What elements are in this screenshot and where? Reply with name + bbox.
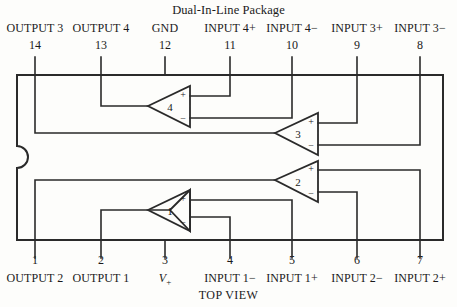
net-output1 <box>101 210 170 240</box>
net-input2-minus <box>318 192 357 240</box>
opamp-3-plus-sign: + <box>308 116 314 127</box>
opamp-1-number: 1 <box>167 205 173 217</box>
opamp-3-minus-sign: − <box>308 140 314 151</box>
net-input2-plus <box>318 170 420 240</box>
schematic-drawing: 4 + − 3 + − 1 + − 2 + − <box>0 0 457 307</box>
dip-pinout-figure: Dual-In-Line Package OUTPUT 3 OUTPUT 4 G… <box>0 0 457 307</box>
net-input4-plus <box>190 75 230 96</box>
opamp-2-minus-sign: − <box>308 188 314 199</box>
package-body-outline <box>17 75 443 240</box>
net-output4 <box>101 75 148 106</box>
opamp-3-number: 3 <box>295 128 301 140</box>
net-output3 <box>35 75 275 133</box>
net-input3-minus <box>318 75 420 145</box>
opamp-1-minus-sign: − <box>180 217 186 228</box>
opamp-2-plus-sign: + <box>308 163 314 174</box>
net-input1-minus <box>190 217 230 240</box>
opamp-4-minus-sign: − <box>180 113 186 124</box>
opamp-1-plus-sign: + <box>180 193 186 204</box>
opamp-2-number: 2 <box>295 176 301 188</box>
net-input1-plus <box>190 200 292 240</box>
opamp-4-number: 4 <box>167 101 173 113</box>
net-input3-plus <box>318 75 357 123</box>
opamp-4-plus-sign: + <box>180 89 186 100</box>
